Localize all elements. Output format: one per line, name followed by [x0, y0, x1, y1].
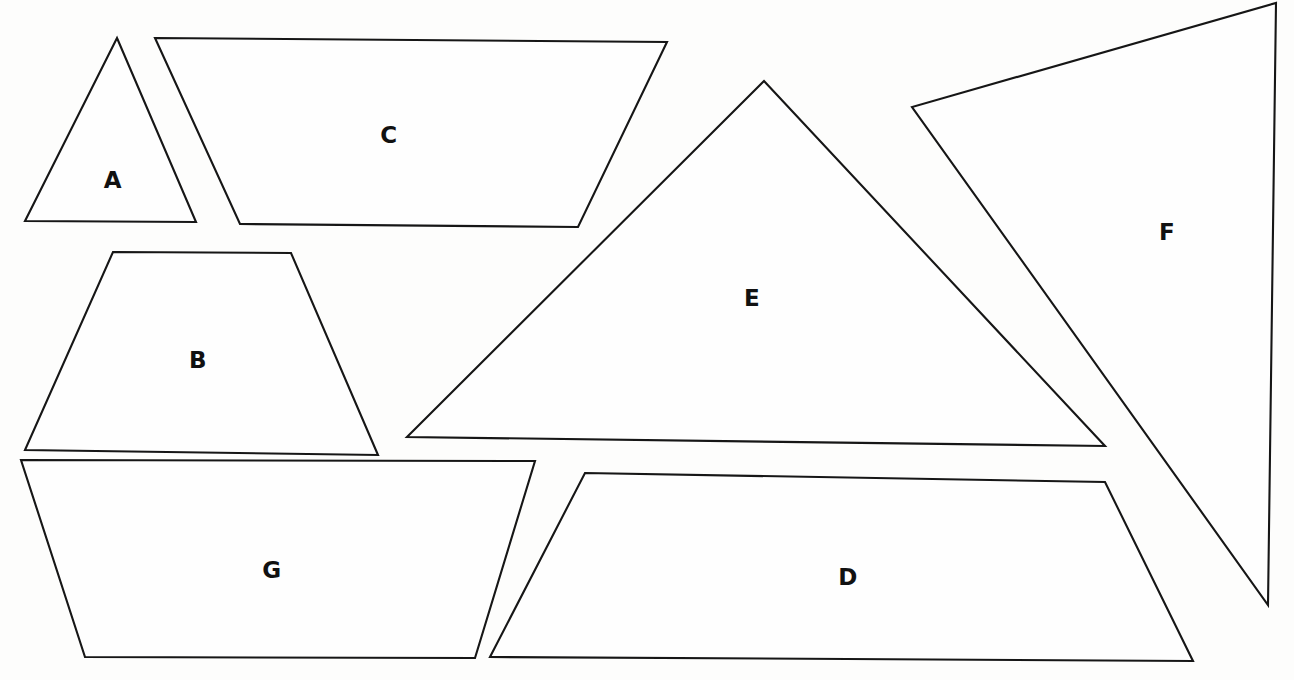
shape-canvas [0, 0, 1294, 680]
shape-label-a: A [104, 167, 122, 193]
shape-label-f: F [1159, 219, 1175, 245]
worksheet-page: A B C D E F G [0, 0, 1294, 680]
shape-label-g: G [262, 557, 281, 583]
shape-c-outline[interactable] [155, 38, 667, 227]
shape-label-c: C [380, 122, 397, 148]
shape-label-e: E [744, 285, 760, 311]
shape-label-b: B [189, 347, 207, 373]
shape-label-d: D [838, 564, 858, 590]
